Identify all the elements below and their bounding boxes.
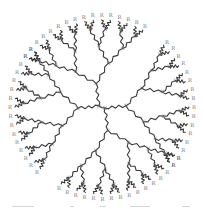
- branch-nitrogen-label: N: [104, 27, 108, 32]
- terminal-r-group: R: [41, 33, 46, 39]
- terminal-r-group: R: [118, 14, 123, 20]
- terminal-r-group: R: [65, 189, 70, 195]
- terminal-r-group: R: [100, 196, 105, 202]
- caption-text-fragment: [182, 206, 190, 207]
- terminal-r-group: R: [190, 86, 195, 92]
- terminal-r-group: R: [135, 19, 140, 25]
- terminal-r-group: R: [185, 69, 190, 75]
- terminal-r-group: R: [24, 155, 29, 161]
- terminal-r-group: R: [181, 147, 186, 153]
- terminal-r-group: R: [192, 104, 197, 110]
- terminal-r-group: R: [35, 39, 40, 45]
- terminal-r-group: R: [188, 130, 193, 136]
- branch-nitrogen-label: N: [176, 123, 180, 128]
- branch-nitrogen-label: N: [97, 43, 101, 48]
- branch-nitrogen-label: N: [37, 58, 41, 63]
- terminal-r-group: R: [190, 122, 195, 128]
- branch-nitrogen-label: N: [127, 178, 131, 183]
- terminal-r-group: R: [15, 69, 20, 75]
- terminal-r-group: R: [74, 192, 79, 198]
- atom-label-layer: NNNNNNRRNRRNNRRNRRNNNRRNRRNNRRNRRNNNNRRN…: [8, 12, 197, 202]
- caption-text-fragment: [12, 206, 34, 207]
- branch-nitrogen-label: N: [81, 180, 85, 185]
- branch-nitrogen-label: N: [88, 27, 92, 32]
- branch-nitrogen-label: N: [59, 90, 63, 95]
- branch-nitrogen-label: N: [173, 78, 177, 83]
- branch-nitrogen-label: N: [30, 71, 34, 76]
- bond: [105, 105, 126, 109]
- terminal-r-group: R: [49, 28, 54, 34]
- branch-nitrogen-label: N: [60, 38, 64, 43]
- terminal-r-group: R: [91, 12, 96, 18]
- branch-nitrogen-label: N: [167, 64, 171, 69]
- branch-nitrogen-label: N: [171, 138, 175, 143]
- branch-nitrogen-label: N: [127, 161, 131, 166]
- bond: [108, 130, 128, 142]
- branch-nitrogen-label: N: [76, 106, 80, 111]
- branch-nitrogen-label: N: [150, 68, 154, 73]
- terminal-r-group: R: [192, 113, 197, 119]
- branch-nitrogen-label: N: [141, 119, 145, 124]
- terminal-r-group: R: [176, 53, 181, 59]
- terminal-r-group: R: [136, 189, 141, 195]
- branch-nitrogen-label: N: [112, 182, 116, 187]
- terminal-r-group: R: [171, 45, 176, 51]
- terminal-r-group: R: [171, 162, 176, 168]
- terminal-r-group: R: [165, 169, 170, 175]
- branch-nitrogen-label: N: [27, 131, 31, 136]
- branch-nitrogen-label: N: [22, 101, 26, 106]
- terminal-r-group: R: [181, 60, 186, 66]
- branch-nitrogen-label: N: [133, 34, 137, 39]
- bond: [128, 142, 148, 148]
- terminal-r-group: R: [192, 95, 197, 101]
- branch-nitrogen-label: N: [42, 157, 46, 162]
- terminal-r-group: R: [8, 95, 13, 101]
- branch-nitrogen-label: N: [50, 142, 54, 147]
- branch-nitrogen-label: N: [73, 31, 77, 36]
- branch-nitrogen-label: N: [74, 69, 78, 74]
- caption-text-fragment: [100, 206, 106, 207]
- terminal-r-group: R: [19, 147, 24, 153]
- terminal-r-group: R: [82, 14, 87, 20]
- branch-nitrogen-label: N: [121, 46, 125, 51]
- branch-nitrogen-label: N: [160, 89, 164, 94]
- terminal-r-group: R: [19, 61, 24, 67]
- branch-nitrogen-label: N: [119, 29, 123, 34]
- core-nitrogen-label: N: [103, 105, 108, 111]
- terminal-r-group: R: [126, 16, 131, 22]
- terminal-r-group: R: [64, 19, 69, 25]
- caption-text-fragment: [70, 206, 74, 207]
- branch-nitrogen-label: N: [106, 61, 110, 66]
- terminal-r-group: R: [15, 139, 20, 145]
- branch-nitrogen-label: N: [39, 96, 43, 101]
- branch-nitrogen-label: N: [97, 183, 101, 188]
- terminal-r-group: R: [73, 16, 78, 22]
- bond: [56, 66, 76, 72]
- terminal-r-group: R: [29, 162, 34, 168]
- terminal-r-group: R: [143, 23, 148, 29]
- terminal-r-group: R: [10, 122, 15, 128]
- branch-nitrogen-label: N: [140, 86, 144, 91]
- branch-nitrogen-label: N: [73, 49, 77, 54]
- terminal-r-group: R: [188, 77, 193, 83]
- terminal-r-group: R: [29, 46, 34, 52]
- branch-nitrogen-label: N: [103, 167, 107, 172]
- terminal-r-group: R: [10, 86, 15, 92]
- terminal-r-group: R: [56, 23, 61, 29]
- bond: [142, 88, 162, 92]
- branch-nitrogen-label: N: [94, 81, 98, 86]
- branch-nitrogen-label: N: [54, 63, 58, 68]
- bond: [76, 72, 97, 84]
- branch-nitrogen-label: N: [94, 148, 98, 153]
- branch-nitrogen-label: N: [153, 162, 157, 167]
- terminal-r-group: R: [91, 195, 96, 201]
- bond: [41, 92, 61, 98]
- branch-nitrogen-label: N: [40, 120, 44, 125]
- terminal-r-group: R: [12, 77, 17, 83]
- terminal-r-group: R: [118, 194, 123, 200]
- terminal-r-group: R: [35, 169, 40, 175]
- terminal-r-group: R: [24, 53, 29, 59]
- terminal-r-group: R: [177, 155, 182, 161]
- branch-nitrogen-label: N: [79, 163, 83, 168]
- branch-nitrogen-label: N: [24, 86, 28, 91]
